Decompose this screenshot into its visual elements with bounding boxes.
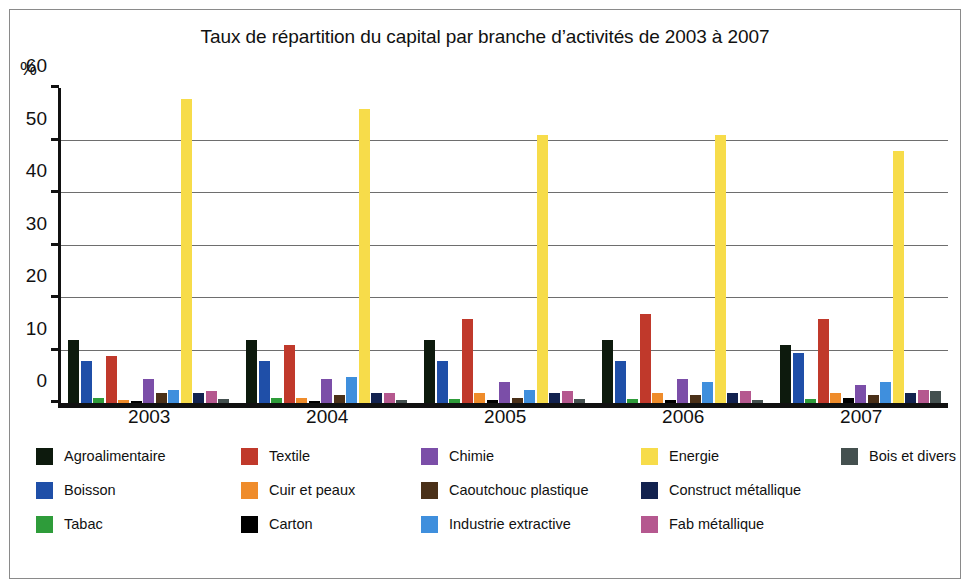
x-tick-label: 2004 xyxy=(306,406,348,428)
x-tick-label: 2006 xyxy=(662,406,704,428)
legend-label: Boisson xyxy=(64,482,116,498)
legend-item[interactable]: Energie xyxy=(641,444,719,468)
bar xyxy=(524,390,535,403)
legend-item[interactable]: Chimie xyxy=(421,444,494,468)
bar xyxy=(424,340,435,403)
legend-item[interactable]: Fab métallique xyxy=(641,512,764,536)
bars-layer xyxy=(58,88,948,403)
y-tick-label: 60 xyxy=(26,55,47,77)
legend-swatch-construct-metallique xyxy=(641,482,658,499)
y-tick-label: 30 xyxy=(26,213,47,235)
bar xyxy=(181,99,192,404)
plot-area: 0102030405060 20032004200520062007 xyxy=(58,88,948,403)
bar xyxy=(321,379,332,403)
bar xyxy=(740,391,751,403)
y-axis-line xyxy=(58,88,61,403)
bar xyxy=(615,361,626,403)
legend-item[interactable]: Construct métallique xyxy=(641,478,801,502)
chart-title: Taux de répartition du capital par branc… xyxy=(55,26,915,48)
legend-swatch-caoutchouc-plastique xyxy=(421,482,438,499)
legend-label: Construct métallique xyxy=(669,482,801,498)
bar-group xyxy=(68,88,228,403)
legend-item[interactable]: Cuir et peaux xyxy=(241,478,355,502)
legend-item[interactable]: Tabac xyxy=(36,512,103,536)
legend-item[interactable]: Bois et divers xyxy=(841,444,956,468)
bar xyxy=(143,379,154,403)
bar xyxy=(677,379,688,403)
bar xyxy=(652,393,663,404)
bar xyxy=(727,393,738,404)
bar xyxy=(68,340,79,403)
bar xyxy=(780,345,791,403)
legend-swatch-tabac xyxy=(36,516,53,533)
legend-label: Chimie xyxy=(449,448,494,464)
bar xyxy=(462,319,473,403)
y-tick-label: 20 xyxy=(26,265,47,287)
bar xyxy=(193,393,204,404)
bar xyxy=(868,395,879,403)
legend-label: Textile xyxy=(269,448,310,464)
legend-item[interactable]: Textile xyxy=(241,444,310,468)
bar xyxy=(168,390,179,403)
x-tick-label: 2007 xyxy=(840,406,882,428)
bar xyxy=(818,319,829,403)
legend-label: Energie xyxy=(669,448,719,464)
bar xyxy=(715,135,726,403)
bar-group xyxy=(602,88,762,403)
bar xyxy=(930,391,941,403)
bar xyxy=(702,382,713,403)
bar xyxy=(893,151,904,403)
y-tick-label: 10 xyxy=(26,318,47,340)
legend-label: Cuir et peaux xyxy=(269,482,355,498)
bar xyxy=(474,393,485,404)
bar xyxy=(246,340,257,403)
bar xyxy=(437,361,448,403)
bar xyxy=(537,135,548,403)
legend-swatch-energie xyxy=(641,448,658,465)
legend-swatch-agroalimentaire xyxy=(36,448,53,465)
legend-item[interactable]: Industrie extractive xyxy=(421,512,571,536)
chart-legend: AgroalimentaireTextileChimieEnergieBois … xyxy=(36,444,936,552)
bar xyxy=(549,393,560,404)
y-tick-label: 0 xyxy=(36,370,47,392)
legend-swatch-fab-metallique xyxy=(641,516,658,533)
x-tick-label: 2003 xyxy=(128,406,170,428)
bar xyxy=(334,395,345,403)
bar xyxy=(830,393,841,404)
bar xyxy=(106,356,117,403)
legend-swatch-carton xyxy=(241,516,258,533)
bar xyxy=(905,393,916,404)
bar xyxy=(259,361,270,403)
bar xyxy=(156,393,167,404)
bar xyxy=(284,345,295,403)
y-tick-label: 40 xyxy=(26,160,47,182)
legend-label: Fab métallique xyxy=(669,516,764,532)
legend-label: Tabac xyxy=(64,516,103,532)
bar xyxy=(346,377,357,403)
bar xyxy=(880,382,891,403)
bar xyxy=(562,391,573,403)
legend-item[interactable]: Boisson xyxy=(36,478,116,502)
bar xyxy=(384,393,395,404)
legend-label: Bois et divers xyxy=(869,448,956,464)
bar xyxy=(793,353,804,403)
bar-group xyxy=(424,88,584,403)
bar xyxy=(206,391,217,403)
legend-item[interactable]: Caoutchouc plastique xyxy=(421,478,588,502)
legend-swatch-boisson xyxy=(36,482,53,499)
legend-label: Caoutchouc plastique xyxy=(449,482,588,498)
y-tick-label: 50 xyxy=(26,108,47,130)
legend-row: TabacCartonIndustrie extractiveFab métal… xyxy=(36,512,936,546)
legend-swatch-textile xyxy=(241,448,258,465)
legend-item[interactable]: Carton xyxy=(241,512,313,536)
chart-figure: Taux de répartition du capital par branc… xyxy=(0,0,970,588)
bar xyxy=(602,340,613,403)
bar xyxy=(499,382,510,403)
legend-label: Agroalimentaire xyxy=(64,448,166,464)
legend-swatch-cuir-et-peaux xyxy=(241,482,258,499)
bar xyxy=(371,393,382,404)
legend-item[interactable]: Agroalimentaire xyxy=(36,444,166,468)
bar xyxy=(855,385,866,403)
legend-swatch-industrie-extractive xyxy=(421,516,438,533)
bar xyxy=(359,109,370,403)
